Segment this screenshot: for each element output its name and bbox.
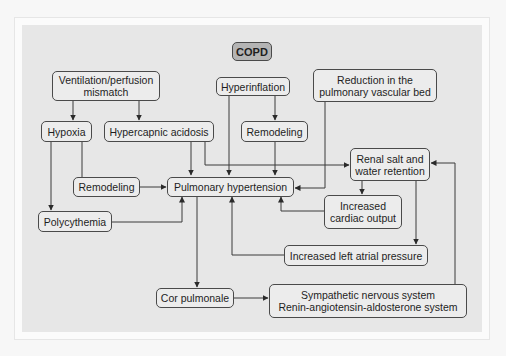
node-pulmonary-hypertension: Pulmonary hypertension (167, 177, 294, 197)
node-renal-salt-water-retention: Renal salt and water retention (350, 148, 430, 181)
node-sns-line1: Sympathetic nervous system (301, 289, 435, 301)
node-sns-raas: Sympathetic nervous system Renin-angiote… (269, 284, 467, 318)
node-copd: COPD (232, 42, 272, 61)
node-cardiac-line2: cardiac output (330, 212, 396, 224)
arrow-hypercapnic-to-renal (205, 142, 349, 165)
node-hyperinflation-label: Hyperinflation (221, 81, 285, 93)
node-remodeling-left: Remodeling (73, 177, 140, 197)
node-hyperinflation: Hyperinflation (216, 77, 290, 96)
node-increased-left-atrial-pressure: Increased left atrial pressure (284, 245, 428, 266)
node-hypoxia: Hypoxia (41, 121, 92, 142)
node-lap-label: Increased left atrial pressure (290, 250, 422, 262)
node-copd-label: COPD (236, 46, 268, 58)
node-reduction-line1: Reduction in the (337, 74, 413, 86)
node-polycythemia: Polycythemia (38, 211, 112, 232)
node-hypoxia-label: Hypoxia (48, 126, 86, 138)
node-cor-pulmonale: Cor pulmonale (156, 288, 234, 308)
arrow-sns-to-renal (431, 163, 455, 284)
node-polycythemia-label: Polycythemia (44, 216, 106, 228)
node-pulm-htn-label: Pulmonary hypertension (174, 181, 287, 193)
node-cardiac-line1: Increased (340, 200, 386, 212)
node-vq-line2: mismatch (84, 86, 129, 98)
arrow-reduction-to-pulmhtn (295, 102, 325, 188)
node-ventilation-perfusion-mismatch: Ventilation/perfusion mismatch (52, 71, 160, 101)
node-cor-pulmonale-label: Cor pulmonale (161, 292, 229, 304)
node-renal-line1: Renal salt and (356, 153, 423, 165)
node-renal-line2: water retention (355, 165, 424, 177)
node-hypercapnic-label: Hypercapnic acidosis (109, 126, 208, 138)
node-remodeling-left-label: Remodeling (78, 181, 134, 193)
node-sns-line2: Renin-angiotensin-aldosterone system (278, 301, 457, 313)
arrow-polycythemia-to-pulmhtn (112, 197, 182, 222)
node-remodeling-top: Remodeling (241, 121, 308, 142)
node-reduction-line2: pulmonary vascular bed (319, 86, 430, 98)
node-remodeling-top-label: Remodeling (246, 126, 302, 138)
node-hypercapnic-acidosis: Hypercapnic acidosis (104, 121, 214, 142)
node-reduction-pulmonary-vascular-bed: Reduction in the pulmonary vascular bed (313, 69, 437, 102)
node-vq-line1: Ventilation/perfusion (59, 74, 154, 86)
arrow-cardiac-to-pulmhtn (281, 197, 324, 211)
arrow-lap-to-pulmhtn (232, 197, 284, 255)
node-increased-cardiac-output: Increased cardiac output (324, 195, 402, 229)
